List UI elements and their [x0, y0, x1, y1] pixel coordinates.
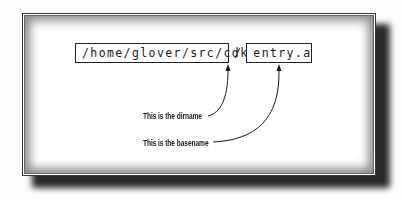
dirname-arrow-icon: [208, 64, 231, 116]
annotation-arrows: [0, 0, 402, 200]
basename-arrow-icon: [213, 64, 282, 142]
basename-annotation: This is the basename: [143, 138, 209, 148]
dirname-annotation: This is the dirname: [143, 111, 202, 121]
